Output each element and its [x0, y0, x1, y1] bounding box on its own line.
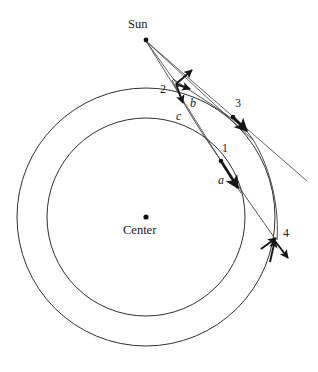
point-3-dot — [231, 115, 236, 120]
point-4-arrow-downright — [275, 241, 288, 258]
vector-b-label: b — [190, 97, 196, 109]
orbit-diagram-canvas — [0, 0, 318, 372]
orbit-diagram-figure: Sun Center 1 2 3 4 a b c — [0, 0, 318, 372]
center-dot — [143, 214, 148, 219]
point-4-label: 4 — [283, 227, 289, 239]
sun-label: Sun — [128, 18, 147, 31]
trajectory-curve-inner — [172, 80, 276, 240]
sun-dot — [144, 38, 149, 43]
center-label: Center — [123, 224, 156, 237]
point-2-resultant-arrow — [176, 70, 192, 84]
vector-c-label: c — [176, 110, 181, 122]
point-1-label: 1 — [222, 142, 228, 154]
point-1-dot — [219, 159, 224, 164]
vector-a-label: a — [218, 174, 224, 186]
point-2-label: 2 — [160, 83, 166, 95]
point-3-label: 3 — [235, 97, 241, 109]
